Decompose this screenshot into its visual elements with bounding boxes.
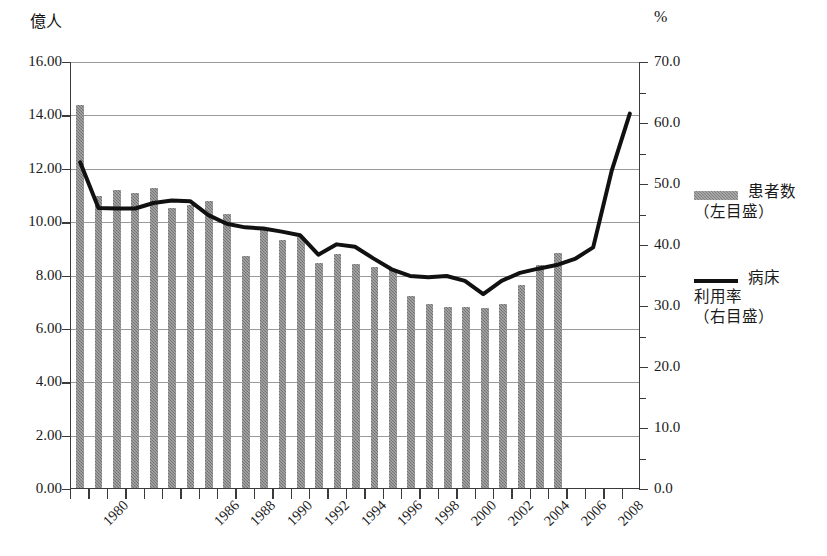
right-axis-minor-tick-mark xyxy=(639,276,646,277)
right-axis-unit-label: % xyxy=(654,8,667,26)
right-axis-tick-label: 70.0 xyxy=(654,54,680,69)
left-axis-unit-label: 億人 xyxy=(30,8,62,32)
left-axis-tick-mark xyxy=(62,382,71,383)
right-axis-tick-label: 0.0 xyxy=(654,481,673,496)
left-axis-tick-mark xyxy=(62,436,71,437)
right-axis-tick-mark xyxy=(639,245,648,246)
left-axis-tick-label: 0.00 xyxy=(36,481,62,496)
left-axis-tick-label: 12.00 xyxy=(28,161,62,176)
chart-container: 億人 % 0.002.004.006.008.0010.0012.0014.00… xyxy=(0,0,827,556)
legend-item-bed-occupancy-label: 病床 利用率 （右目盛） xyxy=(694,269,780,326)
right-axis-tick-mark xyxy=(639,184,648,185)
x-axis-label: 2002 xyxy=(504,497,537,530)
right-axis-tick-mark xyxy=(639,306,648,307)
left-axis-tick-mark xyxy=(62,115,71,116)
x-axis-label: 1980 xyxy=(100,497,133,530)
x-axis-label: 2006 xyxy=(578,497,611,530)
x-axis-label: 1994 xyxy=(357,497,390,530)
right-axis-tick-label: 10.0 xyxy=(654,420,680,435)
x-axis-label: 1990 xyxy=(284,497,317,530)
x-axis-label: 1996 xyxy=(394,497,427,530)
left-axis-tick-mark xyxy=(62,329,71,330)
left-axis-tick-label: 14.00 xyxy=(28,107,62,122)
legend-bar-swatch-icon xyxy=(694,191,738,200)
right-axis-tick-label: 60.0 xyxy=(654,115,680,130)
left-axis-tick-label: 2.00 xyxy=(36,428,62,443)
right-axis-minor-tick-mark xyxy=(639,337,646,338)
left-axis-tick-mark xyxy=(62,62,71,63)
right-axis-tick-mark xyxy=(639,367,648,368)
x-axis-label: 1986 xyxy=(210,497,243,530)
right-axis-tick-label: 50.0 xyxy=(654,176,680,191)
x-axis-label: 1992 xyxy=(320,497,353,530)
right-axis-tick-mark xyxy=(639,489,648,490)
right-axis-tick-label: 40.0 xyxy=(654,237,680,252)
line-series-bed-occupancy xyxy=(71,62,639,488)
right-axis-minor-tick-mark xyxy=(639,154,646,155)
right-axis-tick-label: 30.0 xyxy=(654,298,680,313)
legend-item-bed-occupancy: 病床 利用率 （右目盛） xyxy=(694,268,827,327)
left-axis-tick-label: 10.00 xyxy=(28,214,62,229)
right-axis-minor-tick-mark xyxy=(639,215,646,216)
right-axis-minor-tick-mark xyxy=(639,93,646,94)
x-axis-label: 2000 xyxy=(467,497,500,530)
legend-item-patients: 患者数 （左目盛） xyxy=(694,182,827,222)
x-axis-label: 1998 xyxy=(431,497,464,530)
right-axis-tick-mark xyxy=(639,428,648,429)
legend: 患者数 （左目盛） 病床 利用率 （右目盛） xyxy=(694,182,827,373)
right-axis-minor-tick-mark xyxy=(639,398,646,399)
left-axis-tick-mark xyxy=(62,169,71,170)
line-path xyxy=(80,114,630,295)
x-axis-label: 2008 xyxy=(615,497,648,530)
left-axis-tick-label: 6.00 xyxy=(36,321,62,336)
x-axis-labels: 1980198619881990199219941996199820002002… xyxy=(70,497,640,556)
right-axis-minor-tick-mark xyxy=(639,459,646,460)
legend-item-patients-label: 患者数 （左目盛） xyxy=(694,183,796,220)
left-axis-tick-mark xyxy=(62,276,71,277)
right-axis-tick-label: 20.0 xyxy=(654,359,680,374)
left-axis-tick-label: 8.00 xyxy=(36,268,62,283)
x-axis-label: 1988 xyxy=(247,497,280,530)
right-axis-tick-mark xyxy=(639,62,648,63)
left-axis-tick-label: 4.00 xyxy=(36,374,62,389)
right-axis-tick-mark xyxy=(639,123,648,124)
plot-area xyxy=(70,62,640,489)
x-axis-label: 2004 xyxy=(541,497,574,530)
left-axis-tick-mark xyxy=(62,222,71,223)
legend-line-swatch-icon xyxy=(694,279,738,283)
left-axis-tick-label: 16.00 xyxy=(28,54,62,69)
